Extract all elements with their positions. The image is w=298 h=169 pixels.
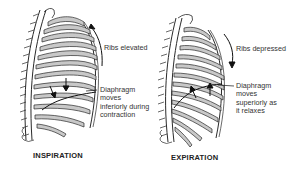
diaphragm-label-line: it relaxes bbox=[236, 107, 277, 115]
diaphragm-label-expiration: Diaphragm moves superiorly as it relaxes bbox=[236, 82, 277, 115]
ribs-depressed-label: Ribs depressed bbox=[236, 45, 286, 53]
expiration-panel: Ribs depressed Diaphragm moves superiorl… bbox=[148, 0, 298, 169]
inspiration-panel: Ribs elevated Diaphragm moves inferiorly… bbox=[0, 0, 150, 169]
diaphragm-label-inspiration: Diaphragm moves inferiorly during contra… bbox=[100, 86, 149, 119]
ribs-elevated-label: Ribs elevated bbox=[104, 44, 148, 52]
expiration-title: EXPIRATION bbox=[171, 153, 218, 162]
inspiration-title: INSPIRATION bbox=[33, 151, 83, 160]
diaphragm-label-line: contraction bbox=[100, 111, 149, 119]
